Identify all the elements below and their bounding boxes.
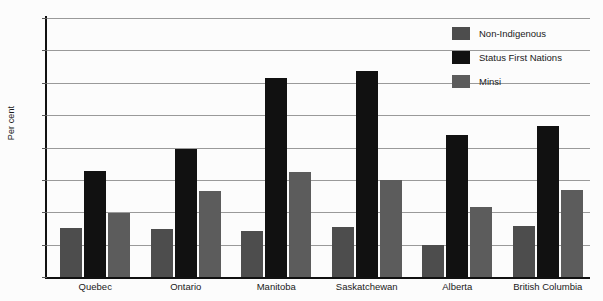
bar-group <box>60 18 130 277</box>
bar-group <box>332 18 402 277</box>
y-axis-tick <box>42 18 47 19</box>
bar <box>289 172 311 277</box>
bar <box>537 126 559 278</box>
legend-swatch-icon <box>452 27 470 40</box>
x-axis-category-label: British Columbia <box>478 281 603 292</box>
y-axis-tick <box>42 245 47 246</box>
bar <box>356 71 378 277</box>
bar <box>199 191 221 277</box>
bar <box>151 229 173 277</box>
bar <box>446 135 468 277</box>
bar <box>265 78 287 277</box>
bar <box>175 149 197 277</box>
bar <box>60 228 82 277</box>
bar <box>513 226 535 277</box>
bar <box>380 180 402 277</box>
bar <box>84 171 106 277</box>
bar <box>241 231 263 277</box>
legend-item-label: Status First Nations <box>479 52 562 63</box>
y-axis-tick <box>42 50 47 51</box>
legend-item-label: Minsi <box>479 76 501 87</box>
legend-item: Minsi <box>452 69 600 93</box>
bar <box>108 213 130 277</box>
y-axis-tick <box>42 148 47 149</box>
x-axis-line <box>45 277 590 279</box>
legend-item: Status First Nations <box>452 45 600 69</box>
bar-group <box>151 18 221 277</box>
y-axis-tick <box>42 115 47 116</box>
legend-swatch-icon <box>452 75 470 88</box>
bar <box>332 227 354 277</box>
bar <box>470 207 492 277</box>
bar <box>422 245 444 277</box>
y-axis-tick <box>42 180 47 181</box>
y-axis-tick <box>42 212 47 213</box>
bar-chart: Per cent 01020304050607080QuebecOntarioM… <box>0 0 603 301</box>
y-axis-title: Per cent <box>6 78 16 168</box>
chart-legend: Non-Indigenous Status First Nations Mins… <box>452 21 600 93</box>
legend-item: Non-Indigenous <box>452 21 600 45</box>
bar <box>561 190 583 277</box>
bar-group <box>241 18 311 277</box>
y-axis-tick <box>42 83 47 84</box>
legend-swatch-icon <box>452 51 470 64</box>
y-axis-tick <box>42 277 47 278</box>
legend-item-label: Non-Indigenous <box>479 28 546 39</box>
